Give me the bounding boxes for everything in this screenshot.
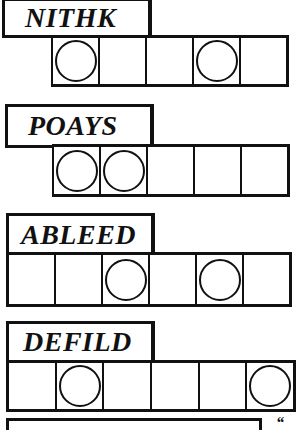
letter-slot[interactable] (101, 255, 148, 304)
scrambled-word-box: NITHK (2, 0, 152, 38)
scrambled-word-box: ABLEED (6, 213, 155, 256)
letter-slot[interactable] (198, 363, 246, 409)
letter-slot[interactable] (193, 147, 240, 194)
scrambled-word: NITHK (5, 2, 148, 34)
letter-slot[interactable] (195, 255, 242, 304)
answer-slots (6, 360, 296, 412)
letter-slot[interactable] (54, 255, 101, 304)
letter-slot[interactable] (245, 363, 293, 409)
letter-slot[interactable] (102, 363, 150, 409)
circle-marker-icon (59, 365, 101, 407)
letter-slot[interactable] (54, 147, 99, 194)
letter-slot[interactable] (240, 147, 287, 194)
answer-slots (51, 35, 289, 87)
letter-slot[interactable] (192, 38, 239, 84)
letter-slot[interactable] (55, 363, 103, 409)
scrambled-word: ABLEED (9, 219, 151, 251)
scrambled-word: POAYS (8, 110, 150, 142)
letter-slot[interactable] (146, 147, 193, 194)
next-panel-edge (6, 418, 262, 430)
letter-slot[interactable] (9, 363, 55, 409)
circle-marker-icon (199, 259, 241, 301)
letter-slot[interactable] (53, 38, 98, 84)
letter-slot[interactable] (145, 38, 192, 84)
scrambled-word-box: POAYS (5, 104, 154, 148)
answer-slots (52, 144, 290, 197)
circle-marker-icon (196, 40, 238, 82)
letter-slot[interactable] (99, 147, 146, 194)
letter-slot[interactable] (242, 255, 289, 304)
scrambled-word: DEFILD (9, 326, 151, 358)
letter-slot[interactable] (148, 255, 195, 304)
scrambled-word-box: DEFILD (6, 321, 155, 363)
circle-marker-icon (103, 150, 145, 192)
letter-slot[interactable] (239, 38, 286, 84)
circle-marker-icon (105, 259, 147, 301)
answer-slots (6, 252, 292, 307)
letter-slot[interactable] (150, 363, 198, 409)
letter-slot[interactable] (9, 255, 54, 304)
circle-marker-icon (249, 365, 291, 407)
letter-slot[interactable] (98, 38, 145, 84)
quote-mark: “ (276, 414, 284, 432)
circle-marker-icon (56, 150, 98, 192)
circle-marker-icon (55, 40, 97, 82)
